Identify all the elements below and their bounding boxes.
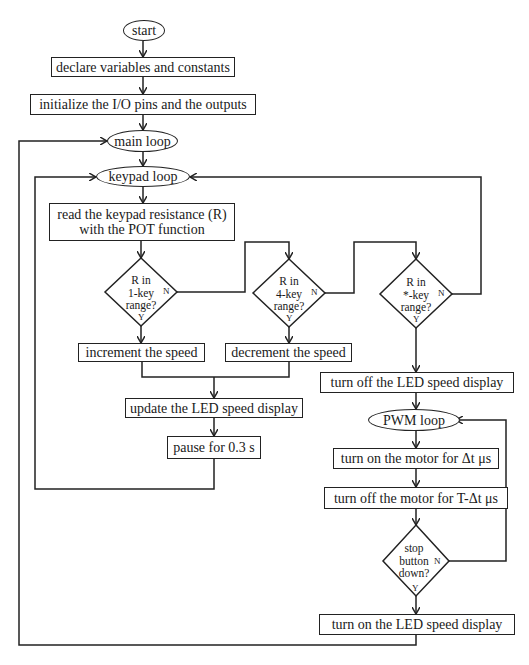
- read-keypad-line2: with the POT function: [79, 222, 204, 237]
- declare-box: declare variables and constants: [51, 57, 235, 77]
- decision-1key-no: N: [163, 287, 170, 296]
- decision-4key-no: N: [311, 288, 318, 297]
- decision-stop-label: stop button down?: [399, 542, 430, 580]
- decision-stop-no: N: [434, 557, 441, 566]
- decision-starkey-line3: range?: [401, 301, 432, 314]
- update-led-box: update the LED speed display: [125, 398, 303, 418]
- decision-starkey-yes: Y: [413, 315, 420, 324]
- motor-on-box: turn on the motor for Δt μs: [333, 448, 499, 469]
- decision-4key-line2: 4-key: [274, 288, 305, 301]
- motor-off-box: turn off the motor for T-Δt μs: [324, 487, 508, 509]
- decision-4key-yes: Y: [286, 314, 293, 323]
- pwm-loop-terminal: PWM loop: [368, 409, 460, 431]
- turn-on-led-box: turn on the LED speed display: [319, 614, 515, 635]
- decision-starkey-line1: R in: [401, 276, 432, 289]
- decision-starkey-label: R in *-key range?: [401, 276, 432, 314]
- decision-1key-line2: 1-key: [126, 287, 157, 300]
- main-loop-terminal: main loop: [107, 130, 178, 152]
- decision-1key-line1: R in: [126, 274, 157, 287]
- decision-1key-yes: Y: [138, 313, 145, 322]
- decision-starkey-line2: *-key: [401, 289, 432, 302]
- read-keypad-line1: read the keypad resistance (R): [57, 207, 226, 222]
- decision-stop-line1: stop: [399, 542, 430, 555]
- increment-box: increment the speed: [78, 343, 205, 362]
- decision-stop-yes: Y: [412, 584, 419, 593]
- turn-off-led-box: turn off the LED speed display: [320, 372, 514, 393]
- decision-stop-line2: button: [399, 555, 430, 568]
- pause-box: pause for 0.3 s: [167, 436, 261, 459]
- decision-1key-label: R in 1-key range?: [126, 274, 157, 312]
- decision-4key-label: R in 4-key range?: [274, 275, 305, 313]
- decision-1key-line3: range?: [126, 299, 157, 312]
- initialize-box: initialize the I/O pins and the outputs: [30, 94, 256, 115]
- decision-4key-line3: range?: [274, 300, 305, 313]
- decision-starkey-no: N: [438, 289, 445, 298]
- start-terminal: start: [123, 20, 165, 41]
- decision-stop-line3: down?: [399, 567, 430, 580]
- decrement-box: decrement the speed: [225, 343, 352, 362]
- keypad-loop-terminal: keypad loop: [96, 166, 190, 187]
- decision-4key-line1: R in: [274, 275, 305, 288]
- read-keypad-box: read the keypad resistance (R) with the …: [49, 203, 235, 241]
